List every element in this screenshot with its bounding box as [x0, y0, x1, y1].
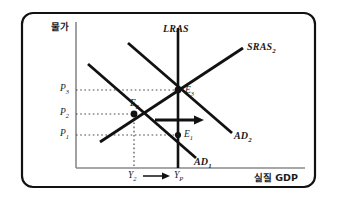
ytick-label-p3-sub: 3 [66, 88, 69, 95]
y-axis-label: 물가 [51, 22, 69, 32]
point-label-e3-sub: 3 [191, 90, 194, 97]
xtick-label-yp-sub: P [179, 175, 183, 182]
xtick-label-yp: YP [174, 171, 183, 182]
xtick-label-y2: Y2 [128, 171, 137, 182]
curve-label-ad2-sub: 2 [248, 136, 252, 143]
curve-label-ad2: AD2 [234, 131, 252, 144]
curve-label-ad2-text: AD [234, 130, 248, 141]
curve-label-sras2-sub: 2 [272, 47, 276, 54]
marker-e3 [175, 87, 182, 94]
ad-as-diagram: 물가 실질 GDP LRAS SRAS2 AD1 AD2 E1 E2 E3 P3… [0, 0, 337, 200]
marker-e2 [131, 111, 138, 118]
curve-label-ad1: AD1 [194, 157, 212, 170]
ytick-label-p1: P1 [60, 129, 69, 140]
figure-border [22, 13, 315, 187]
curve-label-sras2-text: SRAS [247, 41, 272, 52]
ytick-label-p2-sub: 2 [66, 112, 69, 119]
point-label-e2-sub: 2 [136, 103, 139, 110]
point-label-e1-sub: 1 [190, 134, 193, 141]
curve-label-sras2: SRAS2 [247, 42, 276, 55]
point-label-e1: E1 [184, 130, 193, 141]
xtick-label-y2-sub: 2 [133, 175, 136, 182]
x-axis-label: 실질 GDP [254, 173, 298, 183]
ytick-label-p1-sub: 1 [66, 133, 69, 140]
curve-label-ad1-text: AD [194, 156, 208, 167]
point-label-e2: E2 [130, 99, 139, 110]
ytick-label-p2: P2 [60, 108, 69, 119]
point-label-e3: E3 [185, 86, 194, 97]
curve-label-lras: LRAS [163, 24, 189, 34]
curve-label-ad1-sub: 1 [208, 162, 212, 169]
marker-e1 [175, 132, 181, 138]
ytick-label-p3: P3 [60, 84, 69, 95]
